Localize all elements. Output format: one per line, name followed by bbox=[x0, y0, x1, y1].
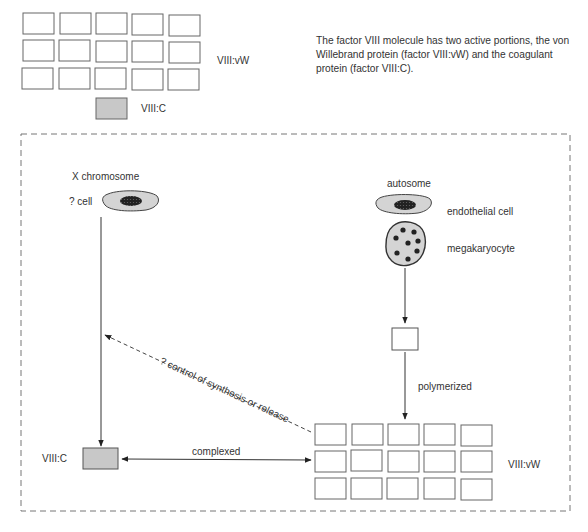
arrow-complexed bbox=[122, 459, 311, 460]
x-chromosome-label: X chromosome bbox=[72, 171, 139, 183]
megakaryocyte-label: megakaryocyte bbox=[447, 243, 515, 255]
endothelial-cell-label: endothelial cell bbox=[447, 206, 513, 218]
description-text: The factor VIII molecule has two active … bbox=[316, 34, 586, 76]
polymerized-label: polymerized bbox=[418, 381, 472, 393]
megakaryocyte-icon bbox=[386, 222, 425, 266]
autosome-label: autosome bbox=[387, 178, 431, 190]
endothelial-cell-icon bbox=[376, 195, 431, 214]
vw-polymer-grid bbox=[315, 424, 492, 500]
legend-vc-label: VIII:C bbox=[141, 103, 166, 115]
unknown-cell-label: ? cell bbox=[69, 196, 92, 208]
vw-monomer-box bbox=[392, 328, 418, 350]
legend-vw-grid bbox=[22, 13, 200, 90]
vc-product-label: VIII:C bbox=[42, 453, 67, 465]
unknown-cell-icon bbox=[103, 191, 159, 211]
legend-vc-box bbox=[96, 98, 127, 119]
vw-product-label: VIII:vW bbox=[508, 459, 540, 471]
legend-vw-label: VIII:vW bbox=[217, 55, 249, 67]
factor-viii-diagram bbox=[0, 0, 588, 532]
vc-product-box bbox=[83, 448, 118, 469]
complexed-label: complexed bbox=[192, 446, 240, 458]
